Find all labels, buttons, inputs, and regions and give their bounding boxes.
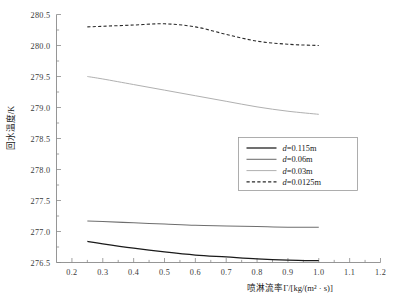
y-tick-label: 279.0 <box>31 104 51 113</box>
x-tick-label: 1.0 <box>313 268 324 277</box>
legend-label-0: d=0.115m <box>283 144 317 153</box>
series-line-3 <box>87 24 318 46</box>
y-tick-label: 277.0 <box>31 228 51 237</box>
x-axis-title: 喷淋流率Γ/[kg/(m² · s)] <box>247 282 333 293</box>
y-tick-label: 278.5 <box>31 135 51 144</box>
legend-label-2: d=0.03m <box>283 167 314 176</box>
y-tick-label: 279.5 <box>31 73 51 82</box>
y-tick-label: 276.5 <box>31 259 51 268</box>
line-chart: 276.5277.0277.5278.0278.5279.0279.5280.0… <box>0 0 397 303</box>
y-tick-label: 278.0 <box>31 166 51 175</box>
x-tick-label: 0.9 <box>282 268 293 277</box>
x-tick-label: 0.8 <box>252 268 263 277</box>
x-tick-label: 1.2 <box>375 268 386 277</box>
x-tick-label: 0.2 <box>66 268 77 277</box>
x-tick-label: 1.1 <box>344 268 355 277</box>
x-tick-label: 0.6 <box>190 268 201 277</box>
series-line-1 <box>87 221 318 227</box>
y-tick-label: 277.5 <box>31 197 51 206</box>
legend-label-1: d=0.06m <box>283 155 314 164</box>
y-tick-label: 280.0 <box>31 42 51 51</box>
y-tick-label: 280.5 <box>31 11 51 20</box>
x-tick-label: 0.7 <box>221 268 232 277</box>
x-tick-label: 0.4 <box>128 268 139 277</box>
legend-label-3: d=0.0125m <box>283 178 322 187</box>
y-axis-title: 回水温度/K <box>5 105 16 150</box>
x-tick-label: 0.3 <box>97 268 108 277</box>
x-tick-label: 0.5 <box>159 268 170 277</box>
series-line-2 <box>87 77 318 115</box>
chart-figure: 276.5277.0277.5278.0278.5279.0279.5280.0… <box>0 0 397 303</box>
series-line-0 <box>87 241 318 260</box>
